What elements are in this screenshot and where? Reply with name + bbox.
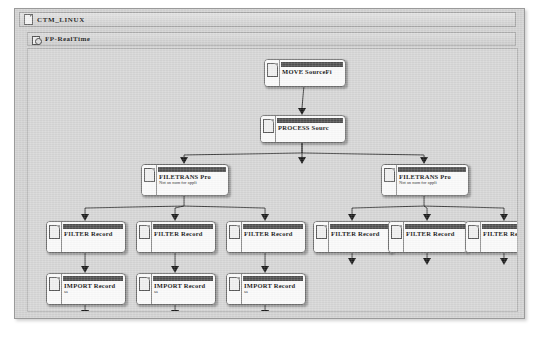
- job-node-filetrans2[interactable]: FILETRANS ProNot an num for appli: [381, 164, 469, 196]
- connector-arrowhead: [81, 214, 89, 221]
- document-icon: [24, 14, 33, 25]
- node-title: MOVE SourceFi: [280, 67, 345, 75]
- node-document-glyph: [49, 225, 60, 239]
- node-subtitle: Not an num for appli: [157, 180, 228, 185]
- job-node-filter5[interactable]: FILTER Record: [388, 221, 468, 253]
- node-document-glyph: [384, 168, 395, 182]
- connector-arrowhead: [81, 310, 89, 312]
- node-subtitle: Not an num for appli: [397, 180, 468, 185]
- node-document-glyph: [229, 225, 240, 239]
- folder-header[interactable]: FP-RealTime: [27, 32, 516, 46]
- job-node-filter3[interactable]: FILTER Record: [226, 221, 306, 253]
- node-title: FILETRANS Pro: [397, 172, 468, 180]
- node-subtitle: sa: [242, 289, 305, 294]
- window-titlebar[interactable]: CTM_LINUX: [19, 12, 516, 27]
- job-node-filetrans1[interactable]: FILETRANS ProNot an num for appli: [141, 164, 229, 196]
- application-window: CTM_LINUX FP-RealTime MOVE SourceFiPROCE…: [14, 8, 525, 319]
- node-document-glyph: [49, 277, 60, 291]
- connector-line: [302, 85, 304, 108]
- job-node-move[interactable]: MOVE SourceFi: [264, 59, 346, 87]
- node-title: FILTER Record: [242, 229, 305, 237]
- job-node-process[interactable]: PROCESS Sourc: [260, 115, 346, 143]
- job-node-filter4[interactable]: FILTER Record: [313, 221, 393, 253]
- gear-icon: [32, 35, 41, 44]
- connector-arrowhead: [423, 214, 431, 221]
- connector-line: [302, 153, 424, 157]
- document-icon: [227, 274, 242, 304]
- connector-line: [175, 206, 184, 214]
- connector-arrowhead: [348, 214, 356, 221]
- window-title: CTM_LINUX: [37, 16, 85, 24]
- node-title: FILTER Record: [152, 229, 215, 237]
- node-document-glyph: [468, 225, 479, 239]
- connector-line: [184, 153, 302, 157]
- document-icon: [261, 116, 276, 142]
- node-title: IMPORT Record: [62, 281, 125, 289]
- connector-arrowhead: [423, 258, 431, 265]
- diagram-canvas[interactable]: MOVE SourceFiPROCESS SourcFILETRANS ProN…: [27, 48, 518, 312]
- document-icon: [382, 165, 397, 195]
- connector-line: [184, 206, 265, 214]
- connector-arrowhead: [348, 258, 356, 265]
- connector-arrowhead: [500, 258, 508, 265]
- connector-arrowhead: [420, 157, 428, 164]
- folder-name: FP-RealTime: [45, 35, 90, 43]
- connector-line: [424, 206, 504, 214]
- node-subtitle: sa: [62, 289, 125, 294]
- connector-arrowhead: [81, 266, 89, 273]
- node-document-glyph: [144, 168, 155, 182]
- connector-arrowhead: [298, 108, 306, 115]
- connector-arrowhead: [261, 266, 269, 273]
- connector-line: [85, 206, 184, 214]
- node-subtitle: sa: [152, 289, 215, 294]
- node-document-glyph: [229, 277, 240, 291]
- connector-arrowhead: [500, 214, 508, 221]
- connector-line: [424, 206, 427, 214]
- node-title: IMPORT Record: [242, 281, 305, 289]
- job-node-import3[interactable]: IMPORT Recordsa: [226, 273, 306, 305]
- connector-arrowhead: [180, 157, 188, 164]
- node-title: IMPORT Record: [152, 281, 215, 289]
- document-icon: [314, 222, 329, 252]
- document-icon: [466, 222, 481, 252]
- job-node-import1[interactable]: IMPORT Recordsa: [46, 273, 126, 305]
- node-document-glyph: [139, 277, 150, 291]
- job-node-filter6[interactable]: FILTER Record: [465, 221, 518, 253]
- document-icon: [389, 222, 404, 252]
- node-title: FILETRANS Pro: [157, 172, 228, 180]
- connector-arrowhead: [171, 310, 179, 312]
- node-document-glyph: [139, 225, 150, 239]
- connector-arrowhead: [298, 157, 306, 164]
- node-title: PROCESS Sourc: [276, 123, 345, 131]
- document-icon: [137, 274, 152, 304]
- document-icon: [227, 222, 242, 252]
- job-node-import2[interactable]: IMPORT Recordsa: [136, 273, 216, 305]
- document-icon: [142, 165, 157, 195]
- node-title: FILTER Record: [62, 229, 125, 237]
- node-document-glyph: [267, 63, 278, 77]
- node-title: FILTER Record: [329, 229, 392, 237]
- document-icon: [265, 60, 280, 86]
- connector-arrowhead: [171, 266, 179, 273]
- node-document-glyph: [263, 119, 274, 133]
- node-document-glyph: [391, 225, 402, 239]
- job-node-filter2[interactable]: FILTER Record: [136, 221, 216, 253]
- job-node-filter1[interactable]: FILTER Record: [46, 221, 126, 253]
- node-title: FILTER Record: [404, 229, 467, 237]
- document-icon: [47, 274, 62, 304]
- node-title: FILTER Record: [481, 229, 518, 237]
- connector-arrowhead: [171, 214, 179, 221]
- connector-arrowhead: [261, 214, 269, 221]
- connector-line: [352, 206, 424, 214]
- node-document-glyph: [316, 225, 327, 239]
- document-icon: [137, 222, 152, 252]
- connector-arrowhead: [261, 310, 269, 312]
- document-icon: [47, 222, 62, 252]
